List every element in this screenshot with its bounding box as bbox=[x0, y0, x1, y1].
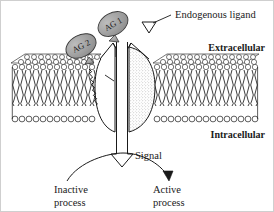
receptor-top-notch-left bbox=[100, 43, 115, 59]
endogenous-ligand-label: Endogenous ligand bbox=[175, 9, 257, 20]
membrane-right-tails bbox=[154, 70, 258, 115]
agonist-1[interactable]: AG 1 bbox=[94, 6, 133, 42]
active-process-line2: process bbox=[153, 197, 185, 208]
receptor-protein bbox=[95, 42, 155, 144]
inactive-process-label: Inactive process bbox=[54, 184, 88, 208]
receptor-left-lobe bbox=[95, 47, 115, 132]
channel-mouth bbox=[113, 43, 131, 49]
membrane-right bbox=[153, 54, 259, 122]
membrane-left-tails bbox=[12, 70, 96, 115]
inactive-process-line1: Inactive bbox=[54, 184, 88, 195]
membrane-left bbox=[11, 54, 101, 122]
ligand-triangle-icon bbox=[142, 22, 156, 33]
inactive-process-line2: process bbox=[54, 197, 86, 208]
active-process-line1: Active bbox=[153, 184, 181, 195]
intracellular-label: Intracellular bbox=[211, 129, 266, 140]
membrane-right-bottom-heads bbox=[154, 116, 258, 122]
membrane-left-bottom-heads bbox=[12, 116, 95, 122]
ligand-leader-line bbox=[153, 15, 171, 23]
membrane-right-top-heads bbox=[153, 54, 259, 70]
active-process-label: Active process bbox=[153, 184, 185, 208]
diagram-canvas: AG 2 AG 1 Endogenous ligand Extracellula… bbox=[1, 1, 274, 212]
endogenous-ligand-marker bbox=[142, 15, 171, 33]
figure-panel: AG 2 AG 1 Endogenous ligand Extracellula… bbox=[0, 0, 274, 212]
extracellular-label: Extracellular bbox=[208, 42, 265, 53]
receptor-right-lobe bbox=[129, 47, 155, 132]
outcome-arc-head bbox=[163, 171, 173, 181]
